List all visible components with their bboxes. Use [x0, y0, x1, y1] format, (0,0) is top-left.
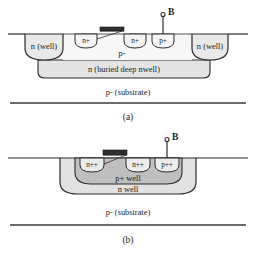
terminal-node-b-icon-2 — [165, 138, 169, 142]
label-substrate-b: p- (substrate) — [106, 208, 151, 217]
diffusion-label-n-plus-plus-left: n++ — [86, 161, 98, 169]
label-p-plus-well: p+ well — [115, 174, 141, 183]
cross-section-figure-a: n+ n+ p+ B n (well) n (well) p- n (burie… — [0, 0, 256, 128]
diffusion-label-n-plus-right: n+ — [131, 37, 139, 45]
terminal-label-b-2: B — [172, 132, 179, 142]
caption-a: (a) — [123, 112, 134, 123]
label-right-nwell: n (well) — [197, 42, 223, 51]
gate-electrode — [100, 27, 124, 31]
label-substrate-a: p- (substrate) — [106, 88, 151, 97]
label-left-nwell: n (well) — [31, 42, 57, 51]
figure-container: n+ n+ p+ B n (well) n (well) p- n (burie… — [0, 0, 256, 256]
gate-electrode-b — [103, 150, 127, 155]
diffusion-label-p-plus: p+ — [159, 37, 167, 45]
cross-section-figure-b: n++ n++ p++ B p+ well n well p- (substra… — [0, 128, 256, 256]
label-deep-nwell: n (buried deep nwell) — [88, 65, 160, 74]
diffusion-label-n-plus-left: n+ — [82, 37, 90, 45]
caption-b: (b) — [122, 235, 133, 246]
label-n-well-b: n well — [118, 185, 139, 194]
terminal-node-b-icon — [161, 13, 165, 17]
diffusion-label-p-plus-plus: p++ — [161, 161, 173, 169]
diffusion-label-n-plus-plus-right: n++ — [132, 161, 144, 169]
terminal-label-b: B — [168, 7, 175, 17]
label-p-body: p- — [119, 49, 126, 58]
